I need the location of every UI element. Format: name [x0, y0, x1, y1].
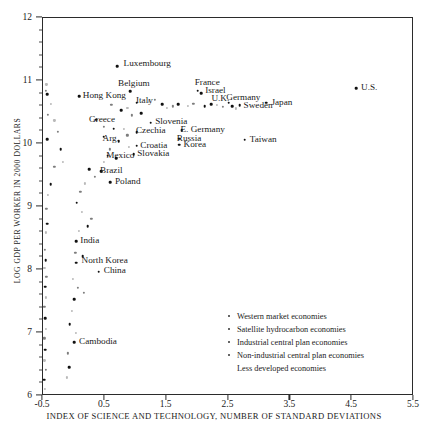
point-label: Luxembourg [124, 60, 171, 69]
y-tick-mark [36, 331, 42, 332]
data-point-labeled [178, 144, 181, 147]
x-tick-label: 4.5 [345, 399, 357, 409]
legend: Western market economiesSatellite hydroc… [228, 310, 378, 375]
point-label: India [80, 237, 99, 246]
data-point-labeled [98, 270, 101, 273]
y-tick-minor [39, 231, 43, 232]
y-tick-minor [39, 256, 43, 257]
y-tick-minor [39, 306, 43, 307]
data-point [140, 112, 143, 115]
y-tick-minor [39, 281, 43, 282]
data-point [88, 168, 91, 171]
y-tick-minor [39, 180, 43, 181]
y-tick-minor [39, 369, 43, 370]
legend-label: Western market economies [237, 310, 327, 323]
legend-item: Western market economies [228, 310, 378, 323]
y-tick-mark [36, 268, 42, 269]
x-tick-label: 2.5 [222, 399, 234, 409]
data-point [44, 285, 47, 288]
legend-marker-icon [228, 341, 230, 343]
data-point [203, 105, 206, 108]
data-point [120, 109, 123, 112]
data-point-labeled [197, 89, 200, 92]
legend-marker-icon [228, 315, 230, 317]
data-point [75, 202, 78, 205]
data-point-labeled [129, 90, 132, 93]
legend-label: Less developed economies [237, 362, 326, 375]
point-label: Korea [184, 140, 206, 149]
data-point [44, 317, 47, 320]
x-axis-title: INDEX OF SCIENCE AND TECHNOLOGY, NUMBER … [0, 411, 428, 421]
data-point-labeled [135, 144, 138, 147]
point-label: Taiwan [250, 135, 277, 144]
y-tick-label: 6 [10, 390, 32, 400]
y-tick-minor [39, 193, 43, 194]
y-tick-minor [39, 168, 43, 169]
data-point [46, 93, 49, 96]
data-point-labeled [75, 261, 78, 264]
data-point [86, 225, 89, 228]
y-tick-minor [39, 294, 43, 295]
x-tick-label: 5.5 [407, 399, 419, 409]
y-tick-minor [39, 29, 43, 30]
scatter-chart: 6789101112-0.50.51.52.53.54.55.5 Luxembo… [0, 0, 428, 439]
y-tick-mark [36, 142, 42, 143]
point-label: Hong Kong [83, 92, 126, 101]
x-tick-label: -0.5 [34, 399, 49, 409]
data-point-labeled [150, 122, 153, 125]
legend-label: Satellite hydrocarbon economies [237, 323, 346, 336]
data-point [44, 348, 47, 351]
legend-label: Non-industrial central plan economies [237, 349, 364, 362]
point-label: U.S. [361, 84, 377, 93]
legend-item: Non-industrial central plan economies [228, 349, 378, 362]
data-point-labeled [239, 104, 242, 107]
data-point-labeled [355, 87, 358, 90]
data-point [59, 148, 62, 151]
data-point [68, 366, 71, 369]
x-tick-label: 1.5 [160, 399, 172, 409]
legend-item: Satellite hydrocarbon economies [228, 323, 378, 336]
y-tick-minor [39, 92, 43, 93]
data-point-labeled [78, 95, 81, 98]
y-tick-mark [36, 79, 42, 80]
y-tick-minor [39, 117, 43, 118]
point-label: Japan [271, 98, 292, 107]
data-point [46, 222, 49, 225]
y-tick-label: 12 [10, 12, 32, 22]
data-point-labeled [109, 181, 112, 184]
data-point [161, 103, 164, 106]
data-point-labeled [244, 139, 247, 142]
y-tick-minor [39, 42, 43, 43]
point-label: Czechia [136, 126, 166, 135]
x-tick-label: 0.5 [98, 399, 110, 409]
data-point [46, 138, 49, 141]
data-point [44, 259, 47, 262]
y-tick-label: 11 [10, 75, 32, 85]
y-tick-mark [36, 16, 42, 17]
data-point-labeled [73, 341, 76, 344]
legend-marker-icon [228, 354, 230, 356]
legend-item: Less developed economies [228, 362, 378, 375]
data-point [69, 323, 72, 326]
y-tick-mark [36, 205, 42, 206]
data-point [73, 298, 76, 301]
data-point-labeled [200, 92, 203, 95]
y-tick-minor [39, 344, 43, 345]
point-label: Arg. [103, 134, 119, 143]
data-point [49, 183, 52, 186]
point-label: Poland [115, 177, 141, 186]
y-tick-label: 7 [10, 327, 32, 337]
y-tick-minor [39, 67, 43, 68]
legend-label: Industrial central plan economies [237, 336, 347, 349]
y-tick-minor [39, 357, 43, 358]
point-label: Brazil [100, 167, 122, 176]
y-tick-minor [39, 130, 43, 131]
y-tick-minor [39, 218, 43, 219]
y-tick-minor [39, 105, 43, 106]
data-point-labeled [75, 240, 78, 243]
point-label: Italy [136, 96, 153, 105]
point-label: Cambodia [79, 337, 117, 346]
y-tick-minor [39, 155, 43, 156]
y-tick-minor [39, 382, 43, 383]
point-label: Sweden [244, 101, 273, 110]
